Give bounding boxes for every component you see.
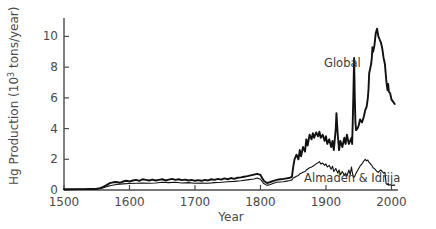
almaden-idrija-series-label: Almaden & Idrija (304, 171, 400, 185)
figure-container: Hg Production (103 tons/year) 0246810 15… (0, 0, 436, 229)
svg-text:Hg Production (103 tons/year): Hg Production (103 tons/year) (7, 7, 21, 185)
x-axis-ticks: 150016001700180019002000 (49, 185, 407, 209)
x-tick-label: 1800 (245, 195, 276, 209)
x-tick-label: 1600 (114, 195, 145, 209)
x-tick-label: 1700 (180, 195, 211, 209)
y-axis-title-suffix: tons/year) (7, 7, 21, 72)
y-tick-label: 8 (50, 60, 58, 74)
y-axis-title: Hg Production (103 tons/year) (7, 7, 21, 185)
hg-production-chart: Hg Production (103 tons/year) 0246810 15… (0, 0, 436, 229)
x-tick-label: 1500 (49, 195, 80, 209)
y-tick-label: 2 (50, 152, 58, 166)
y-tick-label: 6 (50, 91, 58, 105)
global-series-line (64, 29, 395, 189)
y-axis-title-prefix: Hg Production (10 (7, 77, 21, 185)
y-tick-label: 4 (50, 122, 58, 136)
y-axis-ticks: 0246810 (43, 29, 69, 197)
y-tick-label: 10 (43, 29, 58, 43)
global-series-label: Global (324, 56, 361, 70)
x-tick-label: 1900 (311, 195, 342, 209)
x-tick-label: 2000 (376, 195, 407, 209)
x-axis-title: Year (217, 210, 243, 224)
